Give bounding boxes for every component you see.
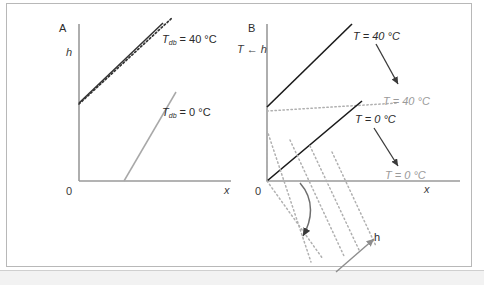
panel-b-y-axis-label-T: T	[237, 43, 244, 55]
panel-b-arrow-t40	[376, 44, 398, 84]
panel-b-y-axis-label-group: T ← h	[237, 44, 267, 55]
panel-b-h-axis-arrow	[336, 239, 374, 272]
panel-b-fan-line	[290, 140, 344, 256]
panel-b-curved-arrow	[300, 183, 311, 236]
panel-b-dotted-fan	[267, 130, 376, 262]
panel-b-annotation-t0-gray: T = 0 °C	[385, 170, 426, 181]
panel-b-annotation-t40-dark: T = 40 °C	[353, 31, 400, 42]
panel-b-curve-shallow-black-0	[267, 101, 362, 181]
panel-b-annotation-t40-gray: T = 40 °C	[383, 96, 430, 107]
panel-b-curve-flat-gray-dotted-40	[267, 103, 398, 111]
left-arrow-icon: ←	[247, 43, 258, 55]
panel-b-annotation-t0-dark: T = 0 °C	[355, 114, 396, 125]
panel-b-letter: B	[248, 23, 255, 34]
panel-b-fan-line	[332, 152, 376, 246]
panel-b-h-axis-label: h	[374, 232, 380, 243]
panel-b-y-axis-label-h: h	[261, 43, 267, 55]
panel-b-x-axis-label: x	[424, 184, 430, 195]
panel-b-arrow-t0	[374, 128, 398, 166]
panel-b-curve-steep-black-40	[267, 24, 352, 107]
panel-b-origin-label: 0	[255, 186, 261, 197]
